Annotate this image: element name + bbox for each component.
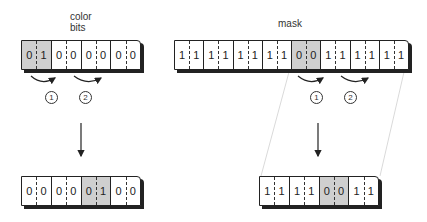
bit-pair: 00 [52, 177, 82, 205]
bit-pair: 00 [82, 41, 112, 69]
bit-cell: 1 [189, 41, 203, 69]
bit-cell: 0 [111, 41, 125, 69]
bit-cell: 1 [304, 177, 318, 205]
bit-cell: 1 [290, 177, 304, 205]
bit-cell: 0 [111, 177, 125, 205]
bit-cell: 0 [52, 177, 66, 205]
bit-cell: 1 [218, 41, 232, 69]
mask-result-register: 11110011 [259, 176, 379, 206]
color-bits-label: color bits [70, 11, 92, 33]
bit-cell: 1 [175, 41, 189, 69]
bit-pair: 00 [111, 41, 140, 69]
mask-label: mask [278, 18, 302, 29]
bit-cell: 1 [248, 41, 262, 69]
mask-register: 1111111100111111 [174, 40, 409, 70]
bit-cell: 0 [292, 41, 306, 69]
bit-cell: 0 [126, 41, 140, 69]
bit-cell: 1 [351, 41, 365, 69]
color-bits-register: 01000000 [21, 40, 141, 70]
bit-cell: 1 [96, 177, 110, 205]
bit-cell: 0 [306, 41, 320, 69]
bit-cell: 0 [22, 177, 36, 205]
bit-cell: 1 [234, 41, 248, 69]
bit-cell: 0 [22, 41, 36, 69]
bit-cell: 0 [82, 177, 96, 205]
step-1-marker-left: 1 [45, 91, 58, 104]
bit-cell: 1 [335, 41, 349, 69]
bit-cell: 1 [365, 41, 379, 69]
bit-pair: 00 [292, 41, 321, 69]
bit-pair: 11 [234, 41, 263, 69]
bit-pair: 11 [263, 41, 292, 69]
color-label-line1: color [70, 11, 92, 22]
bit-pair: 11 [321, 41, 350, 69]
bit-cell: 1 [380, 41, 394, 69]
bit-pair: 11 [349, 177, 378, 205]
bit-pair: 11 [290, 177, 320, 205]
bit-cell: 1 [204, 41, 218, 69]
bit-pair: 00 [320, 177, 350, 205]
bit-pair: 11 [175, 41, 204, 69]
bit-cell: 0 [66, 41, 80, 69]
bit-pair: 00 [52, 41, 82, 69]
bit-cell: 1 [274, 177, 288, 205]
bit-cell: 0 [334, 177, 348, 205]
bit-pair: 00 [111, 177, 140, 205]
bit-cell: 0 [320, 177, 334, 205]
bit-pair: 00 [22, 177, 52, 205]
bit-cell: 0 [82, 41, 96, 69]
bit-cell: 1 [277, 41, 291, 69]
bit-pair: 01 [22, 41, 52, 69]
bit-cell: 1 [349, 177, 363, 205]
bit-pair: 11 [380, 41, 408, 69]
step-2-marker-left: 2 [79, 91, 92, 104]
bit-cell: 0 [96, 41, 110, 69]
bit-cell: 1 [364, 177, 378, 205]
bit-cell: 1 [260, 177, 274, 205]
bit-cell: 0 [126, 177, 140, 205]
bit-cell: 0 [52, 41, 66, 69]
bit-pair: 11 [204, 41, 233, 69]
color-label-line2: bits [70, 22, 92, 33]
bit-cell: 0 [66, 177, 80, 205]
bit-pair: 11 [351, 41, 380, 69]
bit-cell: 0 [36, 177, 50, 205]
bit-cell: 1 [394, 41, 408, 69]
step-1-marker-right: 1 [310, 91, 323, 104]
color-bits-result-register: 00000100 [21, 176, 141, 206]
bit-cell: 1 [36, 41, 50, 69]
step-2-marker-right: 2 [344, 91, 357, 104]
bit-cell: 1 [263, 41, 277, 69]
bit-pair: 01 [82, 177, 112, 205]
bit-pair: 11 [260, 177, 290, 205]
bit-cell: 1 [321, 41, 335, 69]
